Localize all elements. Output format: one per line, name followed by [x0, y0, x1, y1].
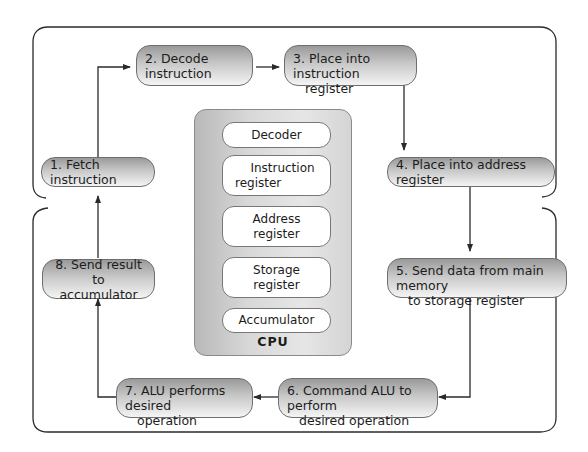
step-1-fetch-instruction: 1. Fetch instruction [41, 157, 155, 187]
step-8-label-line1: 8. Send result to [51, 257, 146, 287]
instruction-register-line2: register [223, 176, 281, 191]
address-register-line1: Address [253, 212, 301, 227]
step-7-label-line2: operation [125, 413, 244, 428]
storage-register-line1: Storage [253, 263, 300, 278]
step-5-send-data-to-storage-register: 5. Send data from main memory to storage… [387, 258, 567, 298]
storage-register-line2: register [253, 278, 299, 293]
accumulator-label: Accumulator [239, 313, 315, 328]
step-3-label-line1: 3. Place into instruction [293, 51, 408, 81]
step-6-label-line1: 6. Command ALU to perform [287, 383, 429, 413]
arrow-5-to-6 [439, 297, 470, 397]
arrow-1-to-2 [98, 67, 130, 158]
step-5-label-line2: to storage register [396, 293, 558, 308]
step-8-send-result-to-accumulator: 8. Send result to accumulator [42, 259, 155, 299]
step-2-label: 2. Decode instruction [145, 51, 244, 81]
cpu-block: Decoder Instruction register Address reg… [194, 109, 352, 356]
instruction-register-line1: Instruction [238, 161, 314, 176]
cpu-accumulator: Accumulator [222, 308, 331, 333]
step-1-label: 1. Fetch instruction [50, 157, 146, 187]
step-4-place-into-address-register: 4. Place into address register [387, 157, 555, 187]
step-7-alu-performs-operation: 7. ALU performs desired operation [116, 378, 253, 418]
step-6-label-line2: desired operation [287, 413, 429, 428]
address-register-line2: register [253, 227, 299, 242]
step-6-command-alu: 6. Command ALU to perform desired operat… [278, 378, 438, 418]
cpu-address-register: Address register [222, 206, 331, 247]
step-7-label-line1: 7. ALU performs desired [125, 383, 244, 413]
step-3-label-line2: register [293, 81, 408, 96]
cpu-decoder: Decoder [222, 122, 331, 148]
decoder-label: Decoder [251, 128, 302, 143]
step-3-place-into-instruction-register: 3. Place into instruction register [284, 45, 417, 86]
step-5-label-line1: 5. Send data from main memory [396, 263, 558, 293]
step-8-label-line2: accumulator [59, 287, 137, 302]
cpu-storage-register: Storage register [222, 257, 331, 298]
cpu-instruction-register: Instruction register [222, 155, 331, 196]
arrow-7-to-8 [98, 299, 116, 397]
step-4-label: 4. Place into address register [396, 157, 546, 187]
cpu-title: CPU [195, 334, 351, 349]
step-2-decode-instruction: 2. Decode instruction [136, 45, 253, 86]
